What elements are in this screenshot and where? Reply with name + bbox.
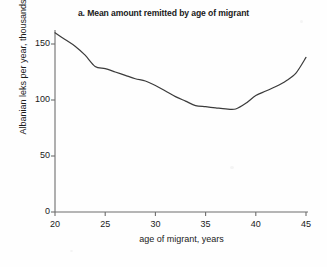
scan-artifact <box>230 166 234 169</box>
x-tick-label: 30 <box>140 219 170 229</box>
x-tick-label: 20 <box>40 219 70 229</box>
scan-artifact <box>300 20 303 23</box>
x-tick-label: 25 <box>90 219 120 229</box>
x-tick-label: 40 <box>241 219 271 229</box>
scan-artifact <box>70 250 73 252</box>
x-tick-label: 35 <box>191 219 221 229</box>
chart-figure: a. Mean amount remitted by age of migran… <box>0 0 327 267</box>
x-tick-label-group: 202530354045 <box>0 0 327 267</box>
x-tick-label: 45 <box>291 219 321 229</box>
